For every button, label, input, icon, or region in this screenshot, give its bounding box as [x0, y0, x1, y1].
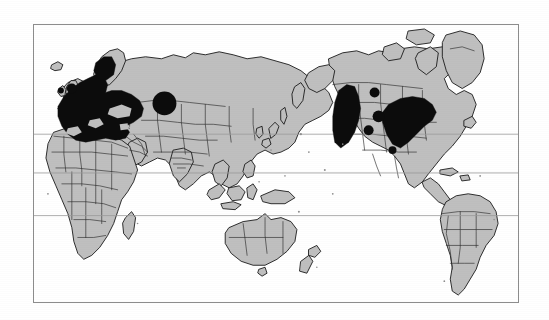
landmass-sulawesi	[247, 184, 257, 200]
range-ireland	[58, 88, 64, 94]
figure-page	[0, 0, 549, 320]
landmass-new-zealand-north	[309, 245, 321, 257]
range-britain	[67, 84, 77, 94]
landmass-iceland	[51, 62, 63, 71]
range-central-asia	[153, 92, 177, 116]
landmass-new-zealand-south	[300, 255, 313, 273]
landmass-borneo	[227, 186, 245, 201]
world-map	[34, 25, 518, 302]
range-plains-dot-4	[389, 146, 397, 154]
landmass-australia	[225, 214, 297, 266]
landmass-victoria-island	[383, 43, 405, 61]
range-hole-small-1	[120, 123, 129, 130]
landmass-sumatra	[207, 184, 225, 200]
landmass-cuba	[440, 168, 458, 176]
landmass-tasmania	[258, 267, 267, 276]
landmass-java	[221, 202, 241, 210]
map-frame	[33, 24, 519, 303]
landmass-hispaniola	[460, 175, 470, 181]
landmass-greenland	[442, 31, 484, 89]
range-plains-dot-1	[370, 88, 380, 98]
landmass-ellesmere	[406, 29, 434, 45]
landmass-new-guinea	[261, 190, 295, 204]
range-north-america-west	[333, 85, 361, 149]
landmass-alaska	[305, 65, 335, 93]
range-plains-dot-2	[373, 110, 385, 122]
range-plains-dot-3	[364, 125, 374, 135]
landmass-africa	[46, 128, 138, 259]
